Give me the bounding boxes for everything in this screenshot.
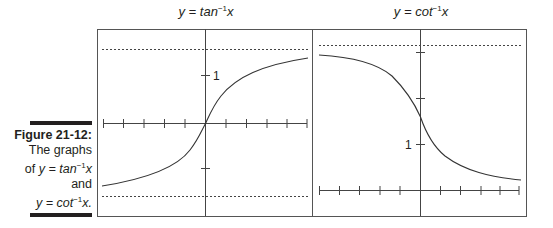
plots: 1 1 — [0, 0, 553, 228]
arctan-tick-label-1: 1 — [213, 69, 220, 83]
arccot-tick-label-1: 1 — [405, 138, 412, 152]
